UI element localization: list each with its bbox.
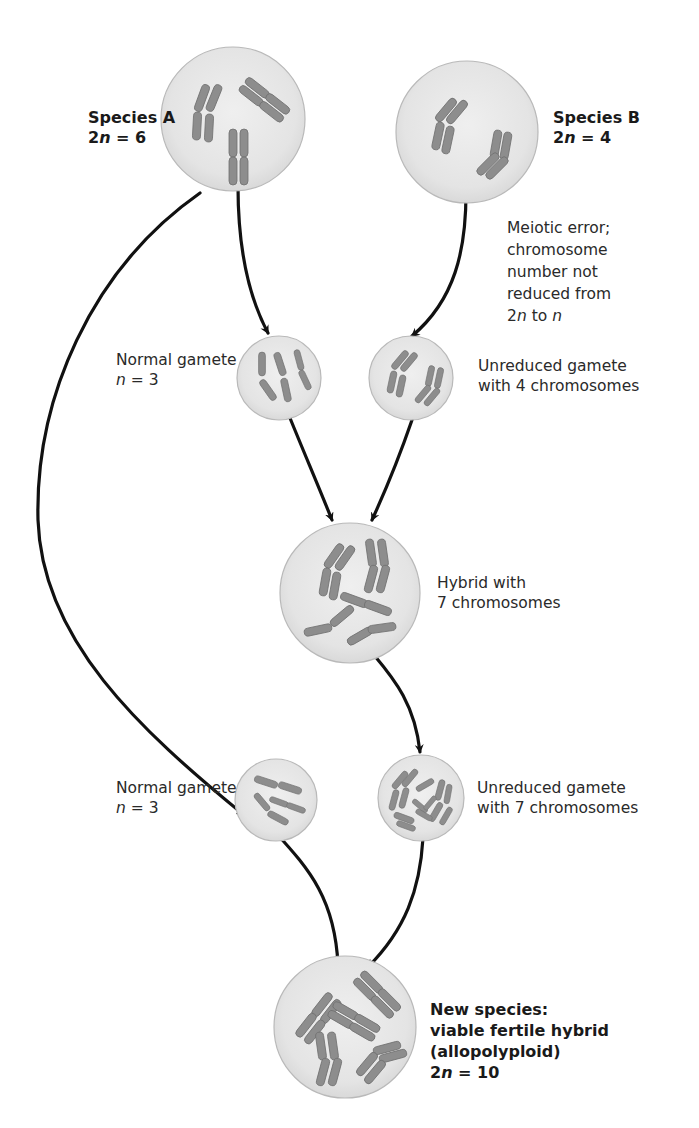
label-species-a: Species A 2n = 6 bbox=[88, 108, 175, 148]
label-normal-gamete-1: Normal gamete n = 3 bbox=[116, 350, 237, 390]
label-unreduced-gamete-7: Unreduced gamete with 7 chromosomes bbox=[477, 778, 638, 818]
arrow-species-a-to-normal-gamete-1 bbox=[238, 186, 268, 333]
label-normal-gamete-2: Normal gamete n = 3 bbox=[116, 778, 237, 818]
arrow-hybrid-to-unreduced-gamete-7 bbox=[374, 655, 420, 752]
arrow-unreduced-gamete-4-to-hybrid bbox=[372, 420, 412, 520]
allopolyploid-diagram: Species A 2n = 6 Species B 2n = 4 Meioti… bbox=[0, 0, 699, 1128]
arrow-normal-gamete-2-to-new-species bbox=[276, 833, 338, 965]
arrow-species-b-to-unreduced-gamete-4 bbox=[412, 193, 466, 336]
cell-species-a bbox=[161, 47, 305, 191]
label-new-species: New species: viable fertile hybrid (allo… bbox=[430, 999, 609, 1083]
arrow-normal-gamete-1-to-hybrid bbox=[290, 418, 332, 520]
label-unreduced-gamete-4: Unreduced gamete with 4 chromosomes bbox=[478, 356, 639, 396]
arrow-species-a-to-normal-gamete-2 bbox=[38, 193, 244, 815]
cell-normal-gamete-1 bbox=[237, 336, 321, 420]
cell-unreduced-gamete-4 bbox=[369, 336, 453, 420]
cell-unreduced-gamete-7 bbox=[378, 755, 464, 841]
diagram-canvas bbox=[0, 0, 699, 1128]
arrow-unreduced-gamete-7-to-new-species bbox=[368, 838, 423, 967]
label-meiotic-error: Meiotic error; chromosome number not red… bbox=[507, 217, 611, 327]
cell-hybrid-7 bbox=[280, 523, 420, 663]
label-species-b: Species B 2n = 4 bbox=[553, 108, 640, 148]
label-hybrid-7: Hybrid with 7 chromosomes bbox=[437, 573, 561, 613]
cell-new-species bbox=[274, 956, 416, 1098]
cell-species-b bbox=[396, 61, 538, 203]
cell-normal-gamete-2 bbox=[235, 759, 317, 841]
